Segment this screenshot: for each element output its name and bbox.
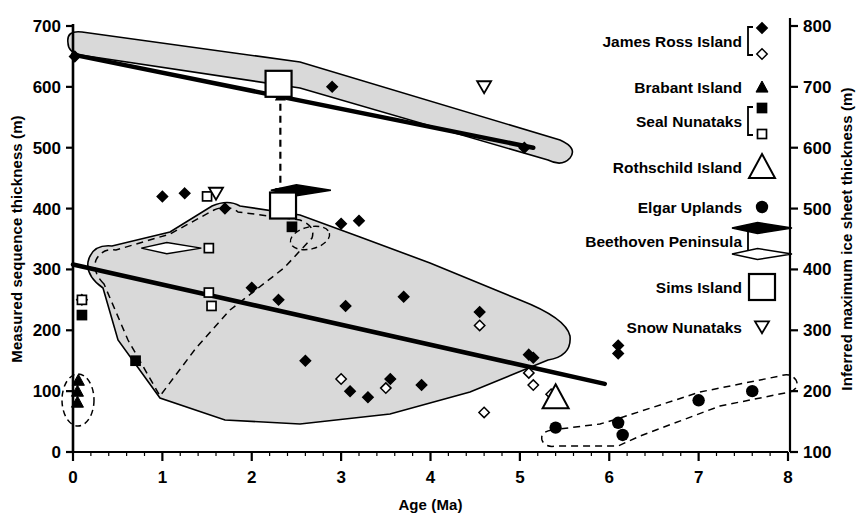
y-tick-label-left-100: 100: [33, 382, 61, 401]
point-open-square-4: [207, 301, 216, 310]
point-large-open-square-0: [266, 71, 292, 97]
x-tick-label-3: 3: [336, 468, 345, 487]
y-tick-label-left-400: 400: [33, 200, 61, 219]
legend-label-seal-nunataks: Seal Nunataks: [636, 113, 742, 130]
point-large-open-square-1: [270, 193, 296, 219]
point-filled-square-0: [77, 311, 86, 320]
y-tick-label-right-300: 300: [803, 321, 831, 340]
y-tick-label-right-500: 500: [803, 200, 831, 219]
y-tick-label-left-0: 0: [52, 443, 61, 462]
y-tick-label-left-700: 700: [33, 17, 61, 36]
point-filled-circle-2: [616, 429, 628, 441]
x-tick-label-4: 4: [426, 468, 436, 487]
legend-label-elgar-uplands: Elgar Uplands: [638, 199, 742, 216]
x-tick-label-1: 1: [158, 468, 167, 487]
point-filled-square-1: [131, 356, 140, 365]
legend-label-snow-nunataks: Snow Nunataks: [627, 319, 742, 336]
legend-marker-open-square: [758, 130, 767, 139]
legend-label-rothschild-island: Rothschild Island: [613, 159, 742, 176]
x-axis-title: Age (Ma): [398, 496, 462, 513]
point-open-square-3: [204, 288, 213, 297]
y-tick-label-right-600: 600: [803, 139, 831, 158]
legend-label-sims-island: Sims Island: [656, 279, 742, 296]
y-tick-label-right-700: 700: [803, 78, 831, 97]
x-tick-label-7: 7: [694, 468, 703, 487]
scatter-chart: 0100200300400500600700012345678100200300…: [0, 0, 866, 519]
point-open-square-2: [204, 244, 213, 253]
point-filled-circle-3: [692, 394, 704, 406]
y-tick-label-right-400: 400: [803, 260, 831, 279]
x-tick-label-6: 6: [605, 468, 614, 487]
y-tick-label-left-500: 500: [33, 139, 61, 158]
point-filled-circle-4: [746, 385, 758, 397]
y-tick-label-left-600: 600: [33, 78, 61, 97]
point-open-square-0: [77, 295, 86, 304]
y-tick-label-right-800: 800: [803, 17, 831, 36]
y-tick-label-right-200: 200: [803, 382, 831, 401]
y-axis-right-title: Inferred maximum ice sheet thickness (m): [838, 87, 855, 390]
chart-page: 0100200300400500600700012345678100200300…: [0, 0, 866, 519]
y-tick-label-left-200: 200: [33, 321, 61, 340]
x-tick-label-5: 5: [515, 468, 524, 487]
legend-label-beethoven-peninsula: Beethoven Peninsula: [585, 233, 742, 250]
point-open-square-1: [203, 192, 212, 201]
x-tick-label-8: 8: [783, 468, 792, 487]
x-tick-label-2: 2: [247, 468, 256, 487]
y-axis-left-title: Measured sequence thickness (m): [8, 115, 25, 362]
x-tick-label-0: 0: [68, 468, 77, 487]
point-filled-circle-0: [549, 421, 561, 433]
legend-marker-filled-square: [758, 104, 767, 113]
legend-marker-large-open-square: [749, 274, 775, 300]
legend-label-brabant-island: Brabant Island: [634, 79, 742, 96]
y-tick-label-left-300: 300: [33, 260, 61, 279]
y-tick-label-right-100: 100: [803, 443, 831, 462]
legend-label-james-ross-island: James Ross Island: [602, 33, 742, 50]
legend-marker-filled-circle: [756, 201, 768, 213]
point-filled-square-2: [287, 222, 296, 231]
point-filled-circle-1: [612, 417, 624, 429]
